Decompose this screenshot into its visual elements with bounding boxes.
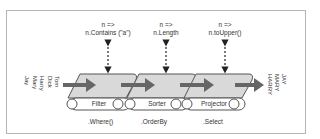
- lambda-body: n.Length: [136, 29, 196, 37]
- input-item: Dick: [47, 76, 53, 88]
- lambda-head: n =>: [78, 21, 138, 29]
- operator-where: .Where(): [88, 118, 113, 125]
- input-item: Harry: [39, 76, 45, 91]
- lambda-label-filter: n => n.Contains ("a"): [78, 21, 138, 37]
- operator-orderby: .OrderBy: [141, 118, 167, 125]
- lambda-head: n =>: [136, 21, 196, 29]
- lambda-head: n =>: [195, 21, 255, 29]
- operator-select: .Select: [203, 118, 223, 125]
- input-item: Mary: [32, 76, 38, 89]
- stage-name-projector: Projector: [193, 100, 235, 107]
- stage-name-sorter: Sorter: [138, 100, 176, 107]
- output-item: MARY: [274, 74, 280, 91]
- lambda-connector-icon: [108, 43, 225, 70]
- lambda-label-projector: n => n.toUpper(): [195, 21, 255, 37]
- output-item: HARRY: [267, 74, 273, 95]
- lambda-body: n.toUpper(): [195, 29, 255, 37]
- lambda-body: n.Contains ("a"): [78, 29, 138, 37]
- input-item: Jay: [24, 76, 30, 85]
- output-item: JAY: [281, 74, 287, 85]
- input-item: Tom: [54, 76, 60, 87]
- lambda-label-sorter: n => n.Length: [136, 21, 196, 37]
- stage-name-filter: Filter: [80, 100, 118, 107]
